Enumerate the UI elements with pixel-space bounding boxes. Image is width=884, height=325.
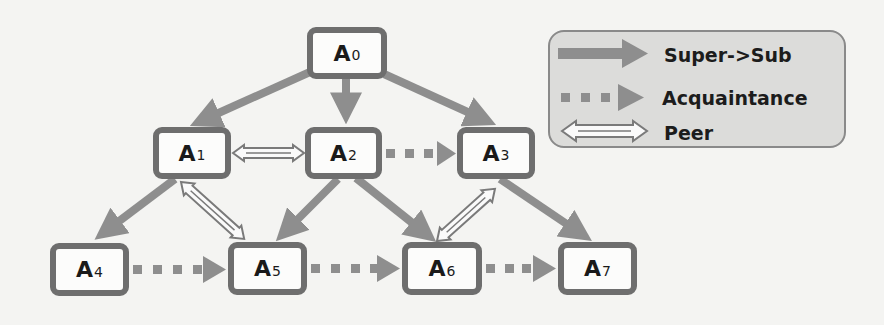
node-subscript: 0 bbox=[352, 47, 361, 63]
edge-a0-a1 bbox=[203, 72, 310, 120]
edge-a6-a3 bbox=[432, 183, 501, 247]
legend: Super->Sub Acquaintance Peer bbox=[548, 30, 846, 148]
edge-a3-a7 bbox=[500, 179, 580, 233]
legend-super-sub-icon bbox=[558, 39, 648, 68]
node-label: A bbox=[330, 141, 347, 166]
node-label: A bbox=[584, 256, 601, 281]
node-subscript: 4 bbox=[94, 264, 103, 280]
edge-a0-a3 bbox=[384, 74, 483, 119]
node-subscript: 2 bbox=[348, 147, 357, 163]
node-subscript: 6 bbox=[447, 263, 456, 279]
legend-label-super-sub: Super->Sub bbox=[664, 44, 792, 66]
node-subscript: 3 bbox=[501, 147, 510, 163]
edge-a1-a5 bbox=[176, 176, 250, 245]
node-label: A bbox=[483, 141, 500, 166]
node-a7: A7 bbox=[558, 242, 637, 295]
node-label: A bbox=[334, 41, 351, 66]
node-a2: A2 bbox=[305, 127, 382, 179]
edge-a4-a5 bbox=[133, 256, 226, 283]
edge-a2-a6 bbox=[356, 178, 425, 233]
legend-acquaintance-icon bbox=[561, 84, 644, 111]
edge-a6-a7 bbox=[486, 255, 556, 282]
node-a1: A1 bbox=[153, 127, 231, 179]
node-label: A bbox=[76, 257, 93, 282]
legend-peer-icon bbox=[562, 121, 647, 141]
edge-a2-a5 bbox=[286, 179, 338, 231]
node-a5: A5 bbox=[228, 242, 307, 295]
node-subscript: 5 bbox=[272, 263, 281, 279]
edge-a5-a6 bbox=[311, 255, 400, 282]
node-a3: A3 bbox=[457, 127, 535, 179]
legend-label-acquaintance: Acquaintance bbox=[662, 87, 808, 109]
edge-a2-a3 bbox=[386, 141, 456, 166]
node-label: A bbox=[179, 141, 196, 166]
node-a0: A0 bbox=[307, 27, 387, 79]
node-subscript: 7 bbox=[602, 263, 611, 279]
node-a6: A6 bbox=[402, 242, 482, 295]
edge-a1-a4 bbox=[106, 179, 175, 231]
node-a4: A4 bbox=[50, 243, 129, 296]
node-subscript: 1 bbox=[197, 147, 206, 163]
node-label: A bbox=[254, 256, 271, 281]
node-label: A bbox=[429, 256, 446, 281]
legend-label-peer: Peer bbox=[664, 122, 713, 144]
